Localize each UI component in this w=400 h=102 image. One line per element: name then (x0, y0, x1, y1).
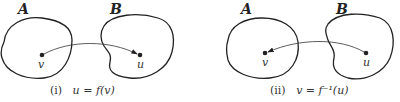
point-u-label: u (137, 58, 144, 71)
caption-formula: v = f⁻¹(u) (296, 84, 348, 97)
point-v-label: v (38, 58, 45, 71)
caption-i: (i) u = f(v) (50, 84, 115, 97)
set-a-label: A (16, 1, 29, 17)
panel-ii: A B v u (227, 1, 394, 79)
set-b-blob (326, 14, 393, 79)
arrow-f-inverse (268, 42, 364, 53)
point-u (364, 51, 369, 56)
point-v (40, 53, 45, 58)
arrow-f (44, 44, 137, 55)
point-v-label: v (262, 56, 269, 69)
caption-index: (ii) (270, 84, 286, 97)
caption-ii: (ii) v = f⁻¹(u) (270, 84, 349, 97)
set-b-label: B (109, 1, 122, 17)
point-u (138, 53, 143, 58)
caption-formula: u = f(v) (73, 84, 115, 97)
set-a-blob (227, 18, 299, 78)
set-a-label: A (239, 1, 252, 17)
set-a-blob (1, 18, 72, 79)
point-v (263, 51, 268, 56)
point-u-label: u (363, 56, 370, 69)
panel-i: A B v u (1, 1, 173, 78)
caption-index: (i) (50, 84, 62, 97)
